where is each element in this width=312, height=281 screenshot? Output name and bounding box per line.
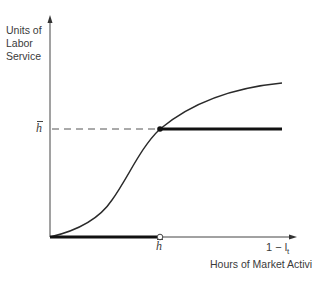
overbar [157, 239, 163, 240]
overbar [37, 121, 43, 122]
x-axis-arrow-icon [289, 235, 297, 240]
filled-point [157, 126, 163, 132]
labor-service-curve [50, 83, 282, 237]
x-axis-label: Hours of Market Activity [210, 258, 312, 271]
h-bar-x-tick-label: h [156, 240, 162, 253]
y-axis-label: Units of Labor Service [6, 24, 56, 63]
y-axis-arrow-icon [48, 15, 53, 23]
h-bar-y-tick-label: h [36, 122, 42, 135]
x-axis-variable: 1 − lt [266, 241, 289, 258]
